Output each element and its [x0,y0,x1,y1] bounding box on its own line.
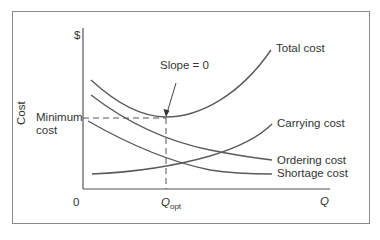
carrying-cost-label: Carrying cost [277,117,345,130]
carrying-cost-curve [92,124,272,174]
slope-annotation: Slope = 0 [160,59,209,72]
minimum-cost-label-line2: cost [36,124,57,137]
y-axis-title: Cost [15,101,27,125]
ordering-cost-curve [91,95,272,160]
slope-arrow-head [164,109,170,117]
y-axis-unit-label: $ [74,29,80,42]
ordering-cost-label: Ordering cost [277,154,346,167]
shortage-cost-curve [88,121,272,174]
q-opt-main: Q [161,196,170,208]
shortage-cost-label: Shortage cost [277,167,348,180]
x-axis-title: Q [320,195,329,208]
q-opt-label: Qopt [161,196,181,213]
minimum-cost-label-line1: Minimum [36,111,83,124]
slope-arrow-line [167,83,176,113]
origin-label: 0 [73,196,79,209]
total-cost-label: Total cost [276,42,325,55]
q-opt-subscript: opt [170,202,181,211]
